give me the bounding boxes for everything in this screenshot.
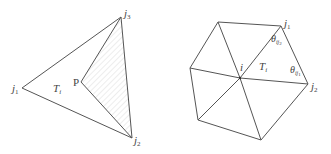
right-figure-hexagon: i Ti j1 j2 θij2 θij1 [190,17,318,140]
hexagon-boundary [190,22,308,140]
label-P: P [73,76,79,88]
label-j1-right: j1 [282,17,291,31]
vertex-i-dot [239,77,241,79]
diagram-canvas: j1 j3 j2 P Ti i Ti j1 j2 θij2 [0,0,331,154]
label-j2-right: j2 [309,80,318,94]
spoke-i-j2 [240,78,308,84]
hatched-region [81,17,132,138]
label-i: i [240,61,243,73]
spoke-i-topleft [218,22,240,78]
label-j1-left: j1 [10,82,19,96]
spoke-i-left [190,68,240,78]
label-theta-ij2: θij2 [271,33,282,46]
spoke-i-bottomleft [198,78,240,120]
label-j3-left: j3 [122,7,131,21]
left-figure-triangle: j1 j3 j2 P Ti [10,7,141,148]
spoke-i-bottom [240,78,261,140]
label-Ti-right: Ti [259,60,267,74]
label-j2-left: j2 [132,134,141,148]
label-Ti-left: Ti [53,82,61,96]
